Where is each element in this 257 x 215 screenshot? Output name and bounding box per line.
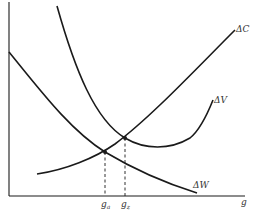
point-gz-dot (123, 136, 127, 140)
curve-delta-w (9, 52, 197, 193)
label-ga: ga (101, 199, 111, 210)
label-delta-w: ΔW (192, 180, 209, 190)
label-gz: gz (121, 199, 131, 210)
x-axis-label: g (241, 197, 247, 207)
diagram-canvas: ΔC ΔV ΔW g ga gz (0, 0, 257, 215)
point-ga-dot (103, 150, 107, 154)
curve-delta-c (37, 30, 235, 174)
label-delta-v: ΔV (213, 95, 228, 105)
label-delta-c: ΔC (235, 24, 249, 34)
